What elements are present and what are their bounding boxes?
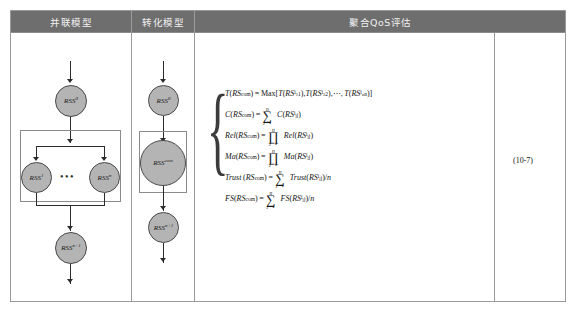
parallel-node-rssn: RSSn <box>89 162 120 193</box>
header-transform-model: 转化模型 <box>132 11 194 33</box>
header-parallel-model: 并联模型 <box>11 11 131 33</box>
parallel-inflow-line <box>70 61 71 81</box>
transform-stem-bottom-arrow <box>160 206 166 210</box>
parallel-inflow-arrow <box>67 79 73 83</box>
equation-number: (10-7) <box>513 156 533 165</box>
transform-node-rss0-label: RSS0 <box>157 95 171 104</box>
equation-list: T(RScom) = Max[T(RSi11),T(RSi22),⋯, T(RS… <box>225 83 372 209</box>
equation-time: T(RScom) = Max[T(RSi11),T(RSi22),⋯, T(RS… <box>225 83 372 104</box>
equation-availability: Ma(RScom) = ∏nj=1 Ma(RSijj) <box>225 146 372 167</box>
transform-node-rsscom: RSScom <box>140 140 186 186</box>
parallel-node-rssn-label: RSSn <box>98 172 112 181</box>
parallel-fork-left-arrow <box>33 157 39 161</box>
parallel-node-rssn1-label: RSSn+1 <box>61 243 81 252</box>
transform-model-diagram: RSS0 RSScom RSSn+1 <box>132 33 194 301</box>
equation-number-cell: (10-7) <box>495 33 566 301</box>
parallel-model-diagram: RSS0 RSS1 RSSn ••• <box>11 33 131 301</box>
aggregate-qos-equations: { T(RScom) = Max[T(RSi11),T(RSi22),⋯, T(… <box>195 33 494 301</box>
equation-reliability: Rel(RScom) = ∏nj=1 Rel(RSijj) <box>225 125 372 146</box>
transform-node-rss0: RSS0 <box>148 85 179 116</box>
parallel-outflow-arrow <box>67 279 73 283</box>
parallel-node-rss0: RSS0 <box>55 85 87 117</box>
parallel-fork-top-bar <box>36 146 105 147</box>
transform-node-rssn1: RSSn+1 <box>148 212 179 243</box>
equation-cost: C(RScom) = ∑nj=1 C(RSijj) <box>225 104 372 125</box>
parallel-node-rssn1: RSSn+1 <box>55 232 87 264</box>
parallel-node-rss0-label: RSS0 <box>64 96 78 105</box>
transform-inflow-line <box>163 61 164 81</box>
parallel-stem-bottom-arrow <box>67 226 73 230</box>
parallel-node-rss1-label: RSS1 <box>30 172 44 181</box>
transform-node-rssn1-label: RSSn+1 <box>154 222 174 231</box>
figure-table: 并联模型 转化模型 聚合QoS评估 RSS0 <box>10 10 566 302</box>
transform-node-rsscom-label: RSScom <box>153 158 173 167</box>
parallel-fork-right-arrow <box>101 157 107 161</box>
parallel-ellipsis: ••• <box>60 172 75 182</box>
parallel-node-rss1: RSS1 <box>21 162 52 193</box>
equation-fs: FS(RScom) = ∑nj=1 FS(RSijj)/n <box>225 188 372 209</box>
transform-outflow-arrow <box>160 258 166 262</box>
header-aggregate-qos: 聚合QoS评估 <box>195 11 566 33</box>
table-header-row: 并联模型 转化模型 聚合QoS评估 <box>11 11 565 33</box>
transform-inflow-arrow <box>160 79 166 83</box>
equation-trust: Trust (RScom) = ∑nj=1 Trust(RSijj)/n <box>225 167 372 188</box>
